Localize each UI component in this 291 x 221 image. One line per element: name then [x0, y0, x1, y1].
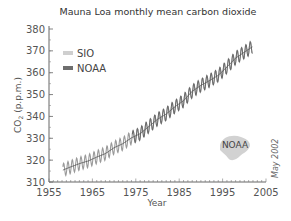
y-tick-label: 360 [26, 67, 45, 78]
x-axis-label: Year [146, 198, 166, 208]
legend-label-noaa: NOAA [77, 63, 106, 74]
legend-swatch-noaa [63, 66, 73, 70]
noaa-logo-text: NOAA [222, 140, 249, 150]
y-tick-label: 370 [26, 45, 45, 56]
x-tick-label: 1995 [210, 187, 235, 198]
x-tick-label: 1955 [36, 187, 61, 198]
y-tick-label: 350 [26, 89, 45, 100]
legend-swatch-sio [63, 51, 73, 55]
noaa-logo: NOAA [220, 136, 250, 160]
series-line-sio [63, 42, 253, 176]
x-tick-label: 2005 [253, 187, 278, 198]
y-tick-label: 380 [26, 24, 45, 35]
x-tick-label: 1975 [123, 187, 148, 198]
y-tick-label: 310 [26, 177, 45, 188]
co2-chart: Mauna Loa monthly mean carbon dioxide 31… [0, 0, 291, 221]
y-tick-label: 320 [26, 155, 45, 166]
y-axis-label: CO2 (p.p.m.) [13, 77, 24, 133]
date-note: May 2002 [271, 139, 280, 178]
legend: SIO NOAA [63, 48, 106, 74]
series-line-noaa [132, 42, 252, 143]
legend-label-sio: SIO [77, 48, 94, 59]
y-tick-label: 330 [26, 133, 45, 144]
x-tick-label: 1965 [80, 187, 105, 198]
chart-title: Mauna Loa monthly mean carbon dioxide [60, 6, 257, 17]
x-tick-label: 1985 [166, 187, 191, 198]
plot-area [63, 42, 253, 176]
y-tick-label: 340 [26, 111, 45, 122]
